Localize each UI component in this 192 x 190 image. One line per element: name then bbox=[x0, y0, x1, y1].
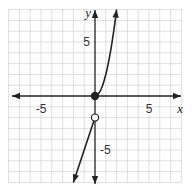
x-axis-label: x bbox=[176, 101, 183, 116]
closed-endpoint bbox=[91, 92, 98, 99]
x-tick-label: -5 bbox=[36, 102, 47, 116]
y-axis-down-arrow-icon bbox=[92, 176, 98, 184]
x-axis-right-arrow-icon bbox=[173, 93, 181, 99]
y-tick-label: -5 bbox=[100, 143, 111, 157]
y-axis-label: y bbox=[83, 5, 91, 20]
x-tick-label: 5 bbox=[146, 102, 153, 116]
y-tick-label: 5 bbox=[83, 35, 90, 49]
axis-labels: -555-5xy bbox=[36, 5, 184, 157]
y-axis-up-arrow-icon bbox=[92, 10, 98, 18]
curve-arrow-icon bbox=[73, 174, 79, 183]
open-endpoint bbox=[91, 114, 98, 121]
curve-arrow-icon bbox=[112, 10, 118, 18]
piecewise-function-graph: -555-5xy bbox=[0, 0, 192, 190]
x-axis-left-arrow-icon bbox=[12, 93, 20, 99]
